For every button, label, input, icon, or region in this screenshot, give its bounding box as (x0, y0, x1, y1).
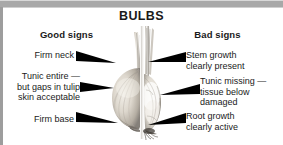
callout-line: damaged (200, 97, 280, 108)
frame-inner-rule (3, 7, 283, 8)
healthy-neck (134, 32, 141, 70)
callout-firm-neck: Firm neck (12, 50, 74, 61)
figure-title: BULBS (0, 9, 283, 23)
callout-firm-base: Firm base (18, 114, 74, 125)
active-roots (143, 128, 158, 140)
callout-line: Tunic entire — (4, 71, 80, 82)
callout-line: tissue below (200, 87, 280, 98)
arrow-tunic-entire (80, 80, 114, 93)
bulbs-figure: BULBS Good signs Bad signs (0, 0, 283, 145)
callout-line: skin acceptable (4, 92, 80, 103)
arrow-tunic-missing (160, 83, 200, 97)
arrow-root-growth (148, 112, 186, 126)
callout-tunic-entire: Tunic entire — but gaps in tulip skin ac… (4, 71, 80, 103)
arrow-firm-base (76, 111, 118, 125)
frame-left-border (0, 7, 3, 145)
callout-line: Root growth (186, 111, 278, 122)
callout-stem-growth: Stem growth clearly present (186, 50, 278, 71)
callout-tunic-missing: Tunic missing — tissue below damaged (200, 76, 280, 108)
callout-root-growth: Root growth clearly active (186, 111, 278, 132)
arrow-stem-growth (148, 51, 186, 64)
callout-line: Tunic missing — (200, 76, 280, 87)
callout-line: Firm base (18, 114, 74, 125)
callout-line: clearly present (186, 61, 278, 72)
arrow-firm-neck (76, 50, 116, 64)
callout-line: Stem growth (186, 50, 278, 61)
callout-line: clearly active (186, 122, 278, 133)
callout-line: but gaps in tulip (4, 82, 80, 93)
callout-line: Firm neck (12, 50, 74, 61)
